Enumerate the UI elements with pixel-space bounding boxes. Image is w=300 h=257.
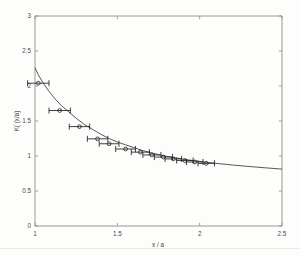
y-tick-label: 0.5	[22, 187, 31, 194]
scatter-plot: 11.522.5 00.511.522.53 x / a K( (x/a)	[0, 0, 300, 257]
y-tick-label: 1.5	[22, 117, 31, 124]
y-tick-label: 0	[27, 222, 31, 229]
data-point-with-errorbar	[87, 136, 107, 142]
x-tick-label: 2	[198, 230, 202, 237]
data-points-group	[28, 80, 215, 166]
axes-frame	[35, 16, 282, 226]
data-point-with-errorbar	[49, 108, 70, 114]
x-tick-label: 2.5	[278, 230, 287, 237]
x-tick-label: 1	[33, 230, 37, 237]
y-tick-label: 2.5	[22, 47, 31, 54]
scan-artifact-line	[0, 248, 300, 249]
y-axis-ticks: 00.511.522.53	[22, 12, 282, 229]
x-axis-label: x / a	[152, 241, 164, 248]
data-point-with-errorbar	[131, 149, 149, 155]
y-tick-label: 1	[27, 152, 31, 159]
data-point-with-errorbar	[69, 124, 89, 130]
y-tick-label: 3	[27, 12, 31, 19]
fit-curve	[35, 68, 282, 169]
y-axis-label: K( (x/a)	[13, 111, 21, 132]
x-tick-label: 1.5	[113, 230, 122, 237]
figure-canvas: 11.522.5 00.511.522.53 x / a K( (x/a)	[0, 0, 300, 257]
